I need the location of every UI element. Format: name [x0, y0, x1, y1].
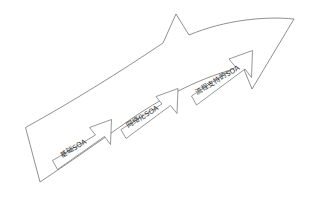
soa-evolution-diagram: 基础SOA 网络化SOA 流程支持的SOA — [0, 0, 313, 197]
soa-evolution-canvas: 基础SOA 网络化SOA 流程支持的SOA — [0, 0, 313, 197]
